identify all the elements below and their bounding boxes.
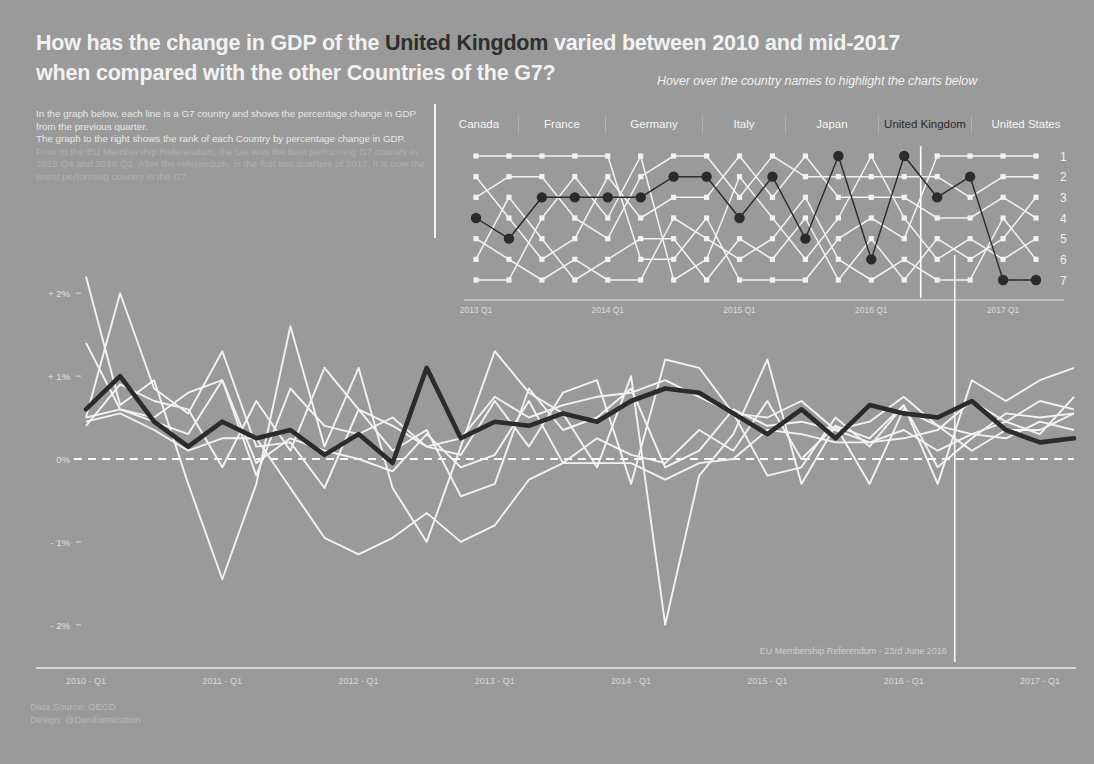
main-x-tick-label: 2014 - Q1 xyxy=(611,676,651,686)
rank-point xyxy=(539,236,544,241)
rank-point xyxy=(869,215,874,220)
main-y-tick-label: + 1% xyxy=(48,371,70,382)
rank-point xyxy=(605,236,610,241)
rank-point xyxy=(737,174,742,179)
design-credit-label: Design: @Daniformication xyxy=(30,713,141,726)
rank-point xyxy=(473,195,478,200)
rank-point xyxy=(935,236,940,241)
rank-point xyxy=(605,153,610,158)
main-x-tick-label: 2012 - Q1 xyxy=(339,676,379,686)
country-button-germany[interactable]: Germany xyxy=(605,116,702,133)
rank-point xyxy=(935,215,940,220)
rank-point xyxy=(506,153,511,158)
main-x-tick-label: 2016 - Q1 xyxy=(884,676,924,686)
rank-point xyxy=(572,153,577,158)
rank-point xyxy=(902,174,907,179)
rank-point xyxy=(869,174,874,179)
rank-point xyxy=(902,215,907,220)
country-button-united-states[interactable]: United States xyxy=(971,116,1080,133)
rank-point-highlight xyxy=(932,192,942,202)
main-x-tick-label: 2011 - Q1 xyxy=(203,676,242,686)
rank-point xyxy=(704,236,709,241)
rank-point xyxy=(1033,236,1038,241)
rank-point xyxy=(671,215,676,220)
rank-point-highlight xyxy=(734,213,744,223)
rank-point xyxy=(902,195,907,200)
rank-point xyxy=(803,195,808,200)
rank-point xyxy=(836,215,841,220)
rank-point xyxy=(869,195,874,200)
footer-credits: Data Source: OECD Design: @Daniformicati… xyxy=(30,700,141,726)
country-button-canada[interactable]: Canada xyxy=(440,116,518,133)
rank-point xyxy=(506,195,511,200)
rank-point xyxy=(869,236,874,241)
rank-point-highlight xyxy=(668,171,678,181)
gdp-line-united-states[interactable] xyxy=(86,360,1074,484)
rank-point xyxy=(770,153,775,158)
rank-point xyxy=(770,236,775,241)
rank-point-highlight xyxy=(471,213,481,223)
country-button-france[interactable]: France xyxy=(518,116,605,133)
country-button-united-kingdom[interactable]: United Kingdom xyxy=(878,116,971,133)
hover-hint-subtitle: Hover over the country names to highligh… xyxy=(657,74,977,88)
rank-point xyxy=(473,174,478,179)
gdp-line-germany[interactable] xyxy=(86,293,1074,496)
dashboard-root: How has the change in GDP of the United … xyxy=(0,0,1094,764)
rank-point xyxy=(803,174,808,179)
country-selector: Canada France Germany Italy Japan United… xyxy=(440,104,1078,144)
rank-point xyxy=(539,215,544,220)
intro-paragraph-1: In the graph below, each line is a G7 co… xyxy=(36,108,426,133)
main-x-tick-label: 2015 - Q1 xyxy=(747,676,787,686)
rank-point xyxy=(1000,236,1005,241)
main-x-tick-label: 2017 - Q1 xyxy=(1020,676,1060,686)
main-chart-svg: + 2%+ 1%0%- 1%- 2%EU Membership Referend… xyxy=(20,250,1080,710)
rank-point xyxy=(704,153,709,158)
rank-point-highlight xyxy=(636,192,646,202)
rank-point xyxy=(803,215,808,220)
rank-axis-label: 1 xyxy=(1060,150,1067,164)
main-x-tick-label: 2010 - Q1 xyxy=(66,676,106,686)
rank-point xyxy=(836,195,841,200)
rank-axis-label: 3 xyxy=(1060,191,1067,205)
rank-point xyxy=(770,195,775,200)
rank-point xyxy=(968,215,973,220)
rank-point-highlight xyxy=(504,233,514,243)
rank-point xyxy=(968,153,973,158)
rank-line-japan[interactable] xyxy=(476,156,1036,259)
title-line-2: when compared with the other Countries o… xyxy=(36,61,555,85)
rank-point xyxy=(1033,174,1038,179)
rank-point xyxy=(968,236,973,241)
intro-description: In the graph below, each line is a G7 co… xyxy=(36,108,426,184)
rank-point xyxy=(506,215,511,220)
rank-point xyxy=(539,174,544,179)
rank-point xyxy=(671,153,676,158)
rank-axis-label: 2 xyxy=(1060,170,1067,184)
country-button-japan[interactable]: Japan xyxy=(785,116,878,133)
rank-point xyxy=(605,215,610,220)
rank-point xyxy=(539,153,544,158)
rank-point xyxy=(506,174,511,179)
rank-point-highlight xyxy=(537,192,547,202)
rank-point xyxy=(1033,215,1038,220)
title-part-1: How has the change in GDP of the xyxy=(36,31,385,55)
rank-point xyxy=(704,195,709,200)
rank-point xyxy=(935,174,940,179)
rank-point xyxy=(737,153,742,158)
gdp-line-italy[interactable] xyxy=(86,413,1074,554)
rank-point xyxy=(638,174,643,179)
rank-point-highlight xyxy=(570,192,580,202)
rank-point-highlight xyxy=(833,151,843,161)
rank-point xyxy=(836,236,841,241)
rank-point xyxy=(572,174,577,179)
main-y-tick-label: - 2% xyxy=(50,620,70,631)
rank-point xyxy=(473,236,478,241)
rank-axis-label: 5 xyxy=(1060,232,1067,246)
rank-point xyxy=(737,195,742,200)
rank-point xyxy=(1000,195,1005,200)
intro-paragraph-3: Prior to the EU Membership Referendum, t… xyxy=(36,146,426,184)
rank-point xyxy=(1033,195,1038,200)
rank-point xyxy=(935,153,940,158)
rank-point-highlight xyxy=(603,192,613,202)
rank-point xyxy=(704,215,709,220)
country-button-italy[interactable]: Italy xyxy=(702,116,785,133)
